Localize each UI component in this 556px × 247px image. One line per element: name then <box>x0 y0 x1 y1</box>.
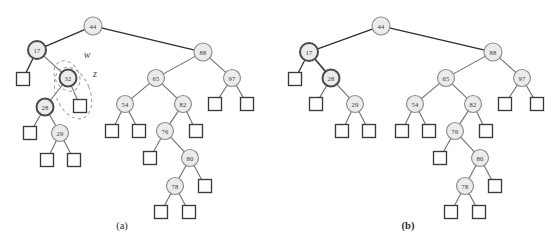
tree-node-key-label: 97 <box>519 75 526 82</box>
tree-edge <box>131 83 150 99</box>
tree-node-key-label: 78 <box>462 183 469 190</box>
tree-node-97: 97 <box>514 70 531 87</box>
tree-node-65: 65 <box>148 70 165 87</box>
external-node-square <box>396 125 409 138</box>
tree-edge <box>71 85 77 100</box>
captions-layer: (a)(b) <box>116 220 415 232</box>
tree-edge <box>359 111 366 125</box>
external-node-square <box>480 125 493 138</box>
tree-edge <box>509 85 518 99</box>
tree-node-54: 54 <box>117 96 134 113</box>
tree-node-54: 54 <box>407 96 424 113</box>
external-node-square <box>241 98 254 111</box>
tree-edge <box>345 111 352 125</box>
tree-node-key-label: 54 <box>122 101 129 108</box>
tree-edge <box>153 138 161 152</box>
tree-node-32: 32 <box>60 70 77 87</box>
tree-edge <box>484 165 492 180</box>
external-node-square <box>106 125 119 138</box>
tree-edge <box>469 165 476 179</box>
tree-edge <box>405 111 412 125</box>
panel-caption-b: (b) <box>402 220 415 232</box>
tree-edge <box>319 85 327 98</box>
tree-edge <box>314 58 325 71</box>
tree-node-17: 17 <box>28 41 46 59</box>
tree-edge <box>50 140 57 154</box>
tree-edge <box>209 58 226 73</box>
external-node-square <box>190 125 203 138</box>
tree-node-key-label: 44 <box>378 23 385 30</box>
tree-node-key-label: 78 <box>172 183 179 190</box>
external-node-square <box>489 180 502 193</box>
external-node-square <box>473 206 486 219</box>
tree-node-key-label: 97 <box>229 75 236 82</box>
tree-edge <box>129 111 136 125</box>
external-node-square <box>445 206 458 219</box>
external-node-square <box>336 125 349 138</box>
external-node-square <box>144 152 157 165</box>
tree-edge <box>45 29 85 46</box>
tree-node-65: 65 <box>438 70 455 87</box>
tree-node-key-label: 17 <box>34 47 41 54</box>
tree-node-82: 82 <box>465 96 482 113</box>
tree-edge <box>49 114 56 126</box>
tree-node-key-label: 54 <box>412 101 419 108</box>
tree-node-key-label: 82 <box>180 101 187 108</box>
external-node-square <box>363 125 376 138</box>
tree-edge <box>170 137 184 152</box>
tree-node-76: 76 <box>447 123 464 140</box>
external-node-square <box>531 98 544 111</box>
tree-edge <box>526 85 534 98</box>
tree-edge <box>169 111 178 125</box>
tree-edge <box>454 193 461 206</box>
tree-edge <box>389 28 484 50</box>
tree-edge <box>179 193 186 206</box>
tree-edge <box>298 60 305 74</box>
tree-edge <box>64 140 71 154</box>
tree-node-key-label: 28 <box>42 104 49 111</box>
tree-node-key-label: 44 <box>90 23 97 30</box>
external-node-square <box>199 180 212 193</box>
external-node-square <box>133 125 146 138</box>
tree-edge <box>419 111 426 125</box>
tree-node-29: 29 <box>347 96 364 113</box>
tree-node-28: 28 <box>37 99 54 116</box>
external-node-square <box>310 98 323 111</box>
tree-node-key-label: 76 <box>452 128 459 135</box>
tree-node-44: 44 <box>372 17 390 35</box>
tree-edge <box>33 114 41 127</box>
tree-edge <box>469 193 476 206</box>
tree-node-44: 44 <box>84 17 102 35</box>
tree-node-29: 29 <box>52 125 69 142</box>
tree-node-key-label: 88 <box>200 49 207 56</box>
tree-node-80: 80 <box>472 150 489 167</box>
external-node-square <box>183 206 196 219</box>
tree-edge <box>115 111 122 125</box>
tree-edge <box>336 84 349 98</box>
tree-node-97: 97 <box>224 70 241 87</box>
tree-edge <box>459 111 468 125</box>
external-node-square <box>499 98 512 111</box>
tree-node-78: 78 <box>167 178 184 195</box>
tree-node-key-label: 32 <box>65 75 72 82</box>
tree-edge <box>179 165 186 179</box>
tree-node-28: 28 <box>323 70 340 87</box>
tree-edge <box>443 138 451 152</box>
external-node-square <box>24 127 37 140</box>
tree-node-17: 17 <box>300 43 318 61</box>
tree-edge <box>317 29 373 49</box>
tree-edge <box>499 58 516 73</box>
tree-edge <box>163 56 196 74</box>
tree-node-key-label: 29 <box>352 101 359 108</box>
external-node-square <box>289 73 302 86</box>
tree-node-key-label: 80 <box>477 155 484 162</box>
tree-node-76: 76 <box>157 123 174 140</box>
tree-node-key-label: 17 <box>306 49 313 56</box>
tree-node-key-label: 65 <box>153 75 160 82</box>
tree-edge <box>452 84 467 99</box>
tree-node-key-label: 29 <box>57 130 64 137</box>
tree-node-82: 82 <box>175 96 192 113</box>
annotation-label-z: z <box>92 68 97 79</box>
tree-node-key-label: 65 <box>443 75 450 82</box>
external-node-square <box>74 100 87 113</box>
